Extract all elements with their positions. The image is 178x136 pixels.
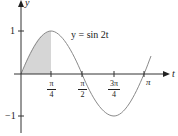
function-label: y = sin 2t <box>71 30 109 40</box>
y-axis-label: y <box>25 0 29 8</box>
x-axis-label: t <box>172 69 175 79</box>
x-tick-label-3pi4: 3π4 <box>108 80 120 99</box>
sine-graph <box>0 0 178 136</box>
y-tick-label-neg1: −1 <box>5 111 16 121</box>
shaded-area <box>21 31 51 74</box>
y-tick-label-1: 1 <box>10 26 15 36</box>
x-tick-label-pi4: π4 <box>47 80 56 99</box>
x-tick-label-pi: π <box>146 78 151 87</box>
y-axis-arrow-icon <box>18 0 24 7</box>
x-axis-arrow-icon <box>163 71 170 77</box>
x-tick-label-pi2: π2 <box>78 80 87 99</box>
